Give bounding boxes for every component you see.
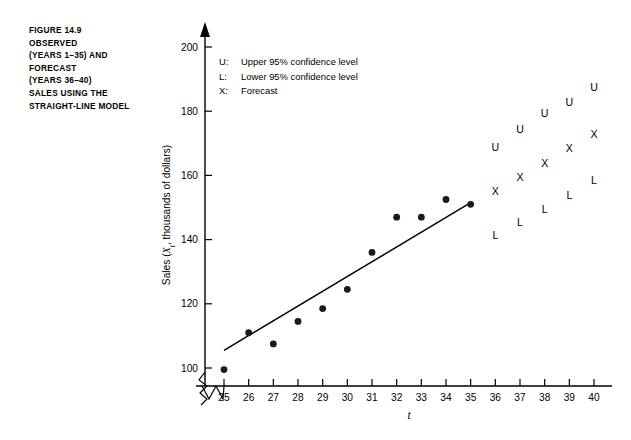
- observed-data-point: [467, 201, 474, 208]
- observed-data-point: [221, 366, 228, 373]
- x-tick-label: 34: [440, 392, 452, 403]
- x-axis-ticks: [224, 379, 594, 386]
- lower-bound-marker: L: [591, 174, 597, 186]
- y-tick-label: 200: [181, 42, 198, 53]
- x-tick-label: 36: [490, 392, 502, 403]
- x-tick-label: 40: [588, 392, 600, 403]
- y-tick-label: 120: [181, 298, 198, 309]
- forecast-marker: X: [541, 157, 548, 169]
- upper-bound-marker: U: [541, 107, 549, 119]
- observed-data-point: [443, 196, 450, 203]
- forecast-marker: X: [492, 185, 499, 197]
- observed-data-point: [418, 214, 425, 221]
- observed-data-point: [344, 286, 351, 293]
- upper-bound-marker: U: [492, 141, 500, 153]
- forecast-markers: XXXXX: [492, 128, 598, 198]
- forecast-marker: X: [516, 171, 523, 183]
- axis-titles: tSales (Xt, thousands of dollars): [161, 145, 411, 421]
- y-tick-label: 140: [181, 234, 198, 245]
- observed-data-point: [393, 214, 400, 221]
- y-tick-label: 180: [181, 106, 198, 117]
- y-tick-label: 160: [181, 170, 198, 181]
- lower-bound-marker: L: [542, 203, 548, 215]
- x-tick-label: 32: [391, 392, 403, 403]
- y-axis-title-pre: Sales (: [161, 253, 172, 285]
- y-tick-label: 100: [181, 363, 198, 374]
- x-tick-label: 27: [268, 392, 280, 403]
- y-axis-ticks: [205, 47, 212, 368]
- lower-bound-markers: LLLLL: [492, 174, 597, 241]
- y-axis-title-post: , thousands of dollars): [161, 145, 172, 245]
- x-tick-label: 39: [564, 392, 576, 403]
- lower-bound-marker: L: [492, 229, 498, 241]
- lower-bound-marker: L: [566, 189, 572, 201]
- x-tick-label: 35: [465, 392, 477, 403]
- y-axis-tick-labels: 100120140160180200: [181, 42, 198, 374]
- observed-data-point: [270, 341, 277, 348]
- scatter-plot: 100120140160180200 252627282930313233343…: [0, 0, 631, 440]
- upper-bound-marker: U: [590, 81, 598, 93]
- x-tick-label: 31: [366, 392, 378, 403]
- x-tick-label: 28: [292, 392, 304, 403]
- upper-bound-marker: U: [516, 123, 524, 135]
- x-tick-label: 29: [317, 392, 329, 403]
- lower-bound-marker: L: [517, 216, 523, 228]
- least-squares-line: [224, 203, 471, 351]
- regression-line: [224, 203, 471, 351]
- y-axis-title: Sales (Xt, thousands of dollars): [161, 145, 177, 285]
- observed-data-point: [245, 329, 252, 336]
- x-tick-label: 38: [539, 392, 551, 403]
- y-axis-arrowhead: [200, 22, 210, 37]
- x-axis-tick-labels: 25262728293031323334353637383940: [218, 392, 600, 403]
- observed-data-point: [295, 318, 302, 325]
- forecast-marker: X: [566, 142, 573, 154]
- plot-axes: [196, 22, 612, 386]
- x-tick-label: 33: [416, 392, 428, 403]
- upper-bound-marker: U: [566, 96, 574, 108]
- x-axis-title: t: [407, 409, 411, 421]
- x-tick-label: 26: [243, 392, 255, 403]
- x-tick-label: 37: [514, 392, 526, 403]
- observed-data-point: [319, 305, 326, 312]
- x-tick-label: 30: [342, 392, 354, 403]
- upper-bound-markers: UUUUU: [492, 81, 598, 152]
- figure-container: FIGURE 14.9 OBSERVED (YEARS 1–35) AND FO…: [0, 0, 631, 440]
- forecast-marker: X: [590, 128, 597, 140]
- observed-data-point: [369, 249, 376, 256]
